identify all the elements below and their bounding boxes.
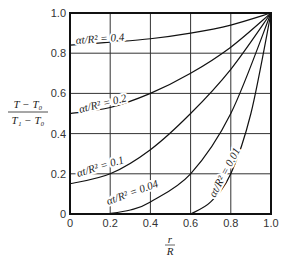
y-tick-label: 0.4 <box>51 128 66 140</box>
x-tick-label: 0.2 <box>103 217 118 229</box>
y-tick-label: 0.8 <box>51 47 66 59</box>
y-label-numerator: T − T₀ <box>14 98 43 110</box>
curve-label: αt/R² = 0.2 <box>78 91 129 115</box>
curve-label: αt/R² = 0.1 <box>75 153 125 179</box>
curve-label: αt/R² = 0.4 <box>75 31 125 46</box>
y-tick-label: 0.2 <box>51 168 66 180</box>
curve-label: αt/R² = 0.04 <box>105 177 160 207</box>
temperature-profile-chart: 00.20.40.60.81.000.20.40.60.81.0 αt/R² =… <box>0 0 289 259</box>
x-tick-label: 1.0 <box>263 217 278 229</box>
y-axis-label: T − T₀ T₁ − T₀ <box>8 98 48 126</box>
x-label-numerator: r <box>168 233 173 245</box>
x-tick-label: 0.4 <box>143 217 158 229</box>
x-tick-label: 0.6 <box>183 217 198 229</box>
y-tick-label: 0.6 <box>51 87 66 99</box>
y-tick-label: 0 <box>60 208 66 220</box>
y-tick-label: 1.0 <box>51 7 66 19</box>
x-tick-label: 0 <box>67 217 73 229</box>
x-label-denominator: R <box>166 245 174 257</box>
x-tick-label: 0.8 <box>223 217 238 229</box>
x-axis-label: r R <box>165 233 175 257</box>
curve-label: αt/R² = 0.01 <box>206 146 242 199</box>
curve-line <box>106 13 271 214</box>
y-label-denominator: T₁ − T₀ <box>12 114 45 126</box>
